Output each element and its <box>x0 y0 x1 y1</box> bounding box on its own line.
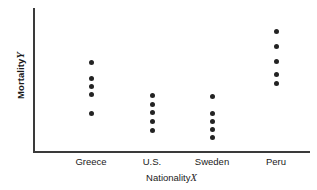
data-point <box>89 111 94 116</box>
data-point <box>210 94 215 99</box>
data-point <box>89 84 94 89</box>
data-point <box>150 102 155 107</box>
data-point <box>274 59 279 64</box>
data-point <box>89 76 94 81</box>
data-point <box>210 127 215 132</box>
scatter-chart: MortalityY NationalityX GreeceU.S.Sweden… <box>0 0 317 190</box>
data-point <box>274 44 279 49</box>
data-point <box>89 92 94 97</box>
data-point <box>150 93 155 98</box>
data-point <box>150 128 155 133</box>
data-point <box>150 110 155 115</box>
data-point <box>150 119 155 124</box>
data-point <box>210 119 215 124</box>
data-point <box>210 135 215 140</box>
data-points-layer <box>0 0 317 190</box>
data-point <box>210 111 215 116</box>
data-point <box>274 29 279 34</box>
data-point <box>274 72 279 77</box>
data-point <box>274 81 279 86</box>
data-point <box>89 60 94 65</box>
